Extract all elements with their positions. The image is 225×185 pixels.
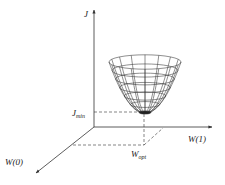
projection-guides	[73, 112, 163, 145]
bowl-meridian	[112, 65, 145, 113]
w0-axis	[36, 127, 94, 173]
minimum-point	[139, 111, 151, 114]
w-opt-label: Wopt	[131, 149, 147, 160]
error-surface-diagram: J W(1) W(0) Jmin Wopt	[0, 0, 225, 185]
j-min-label: Jmin	[72, 108, 85, 119]
bowl-meridian	[145, 65, 178, 113]
paraboloid-surface	[109, 55, 181, 114]
bowl-meridian	[109, 62, 145, 113]
bowl-meridian	[145, 62, 181, 113]
wopt-w1-guide	[144, 128, 163, 145]
j-axis-label: J	[84, 9, 89, 19]
w1-axis-label: W(1)	[188, 134, 206, 144]
w0-axis-label: W(0)	[5, 157, 23, 167]
